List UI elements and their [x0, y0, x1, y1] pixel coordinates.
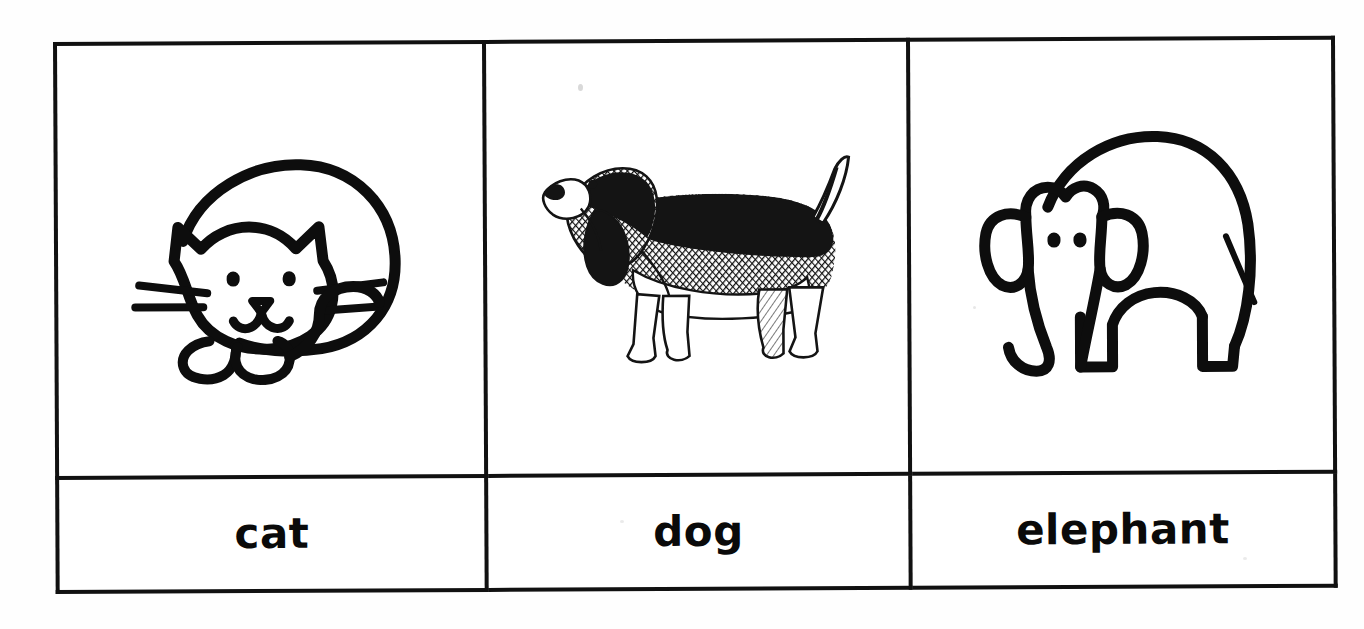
scan-speck [578, 84, 583, 91]
dog-drawing [536, 137, 857, 379]
word-label-elephant: elephant [912, 508, 1333, 552]
word-label-dog: dog [488, 510, 908, 554]
scan-speck [620, 520, 624, 523]
scan-sheet: cat dog elephant [0, 0, 1364, 629]
word-label-cat: cat [59, 512, 484, 556]
cat-drawing [120, 134, 421, 385]
word-cell-dog[interactable]: dog [486, 474, 911, 590]
word-cell-elephant[interactable]: elephant [910, 472, 1336, 588]
cat-picture-holder [57, 44, 484, 476]
word-cell-cat[interactable]: cat [57, 476, 487, 592]
dog-picture-holder [486, 42, 908, 474]
elephant-picture-holder [910, 40, 1333, 472]
picture-cell-cat[interactable] [55, 42, 486, 478]
picture-cell-elephant[interactable] [908, 38, 1335, 474]
word-row: cat dog elephant [57, 472, 1336, 592]
scan-speck [1243, 557, 1247, 560]
picture-cell-dog[interactable] [484, 40, 910, 476]
vocabulary-picture-table: cat dog elephant [53, 36, 1338, 594]
elephant-drawing [961, 120, 1282, 392]
scan-speck [973, 306, 976, 309]
picture-row [55, 38, 1335, 478]
